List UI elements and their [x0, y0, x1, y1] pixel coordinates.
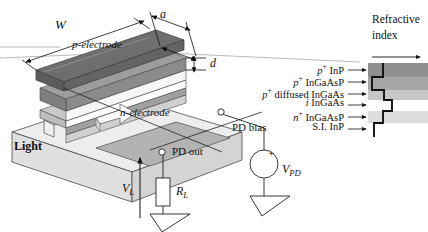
- dimension-label-d: d: [210, 57, 216, 69]
- figure-canvas: W a d p-electrode n-electrode Light PD b…: [0, 0, 428, 232]
- ground-symbol-out: [150, 214, 190, 232]
- layer-prefix: i: [306, 97, 309, 108]
- output-voltage-label: VL: [122, 182, 134, 197]
- dimension-d: [186, 56, 206, 72]
- layer-name: InP: [329, 65, 344, 76]
- index-panel-title-line2: index: [372, 30, 398, 42]
- layer-name: InGaAsP: [306, 77, 345, 88]
- figure-vector-layer: [0, 0, 428, 232]
- layer-superscript: +: [299, 74, 303, 83]
- layer-superscript: +: [323, 62, 327, 71]
- resistor-label: RL: [176, 185, 188, 200]
- pd-out-label: PD out: [172, 146, 203, 157]
- resistor-subscript: L: [183, 190, 188, 200]
- resistor-symbol: [156, 178, 170, 206]
- output-subscript: L: [129, 187, 134, 197]
- dimension-label-W: W: [55, 18, 66, 31]
- source-polarity-label: +: [268, 148, 274, 159]
- ground-symbol-bias: [250, 196, 290, 216]
- layer-label-si-inp: S.I. InP: [312, 122, 344, 133]
- layer-name: InGaAs: [311, 97, 344, 108]
- pd-bias-label: PD bias: [232, 122, 267, 133]
- layer-label-i-ingaas: i InGaAs: [306, 98, 344, 109]
- p-electrode-label: p-electrode: [72, 39, 122, 50]
- layer-name: S.I. InP: [312, 121, 344, 132]
- dimension-label-a: a: [160, 8, 166, 20]
- n-electrode-label: n-electrode: [120, 107, 170, 118]
- node-pd-bias[interactable]: [218, 109, 224, 115]
- index-panel-title-line1: Refractive: [372, 14, 420, 26]
- refractive-index-bands: [368, 63, 428, 137]
- layer-leader-arrows: [348, 70, 366, 129]
- layer-superscript: +: [299, 109, 303, 118]
- source-label: VPD: [282, 163, 301, 178]
- light-label: Light: [14, 140, 42, 152]
- layer-superscript: +: [268, 86, 272, 95]
- node-pd-out[interactable]: [159, 149, 165, 155]
- source-subscript: PD: [289, 168, 301, 178]
